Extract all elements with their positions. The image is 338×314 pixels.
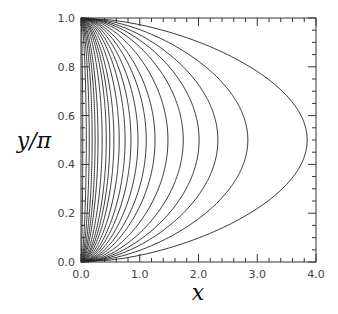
y-axis-label: y/π bbox=[16, 128, 52, 153]
x-tick-label: 4.0 bbox=[307, 268, 325, 281]
y-tick-label: 0.4 bbox=[58, 158, 76, 171]
contour-line bbox=[81, 18, 199, 262]
x-tick-label: 1.0 bbox=[131, 268, 149, 281]
x-tick-label: 0.0 bbox=[72, 268, 90, 281]
contour-curves bbox=[81, 18, 307, 262]
contour-line bbox=[81, 18, 218, 262]
x-tick-label: 3.0 bbox=[249, 268, 267, 281]
y-tick-label: 0.6 bbox=[58, 110, 76, 123]
y-tick-label: 0.8 bbox=[58, 61, 76, 74]
y-tick-label: 1.0 bbox=[58, 12, 76, 25]
contour-line bbox=[81, 18, 125, 262]
plot-frame bbox=[81, 18, 316, 262]
y-tick-label: 0.2 bbox=[58, 207, 76, 220]
x-axis-label: x bbox=[192, 280, 205, 305]
y-tick-label: 0.0 bbox=[58, 256, 76, 269]
axis-ticks bbox=[81, 18, 316, 262]
contour-line bbox=[81, 18, 307, 262]
y-tick-labels: 0.00.20.40.60.81.0 bbox=[58, 12, 76, 269]
contour-chart: 0.01.02.03.04.0 0.00.20.40.60.81.0 x y/π bbox=[0, 0, 338, 314]
